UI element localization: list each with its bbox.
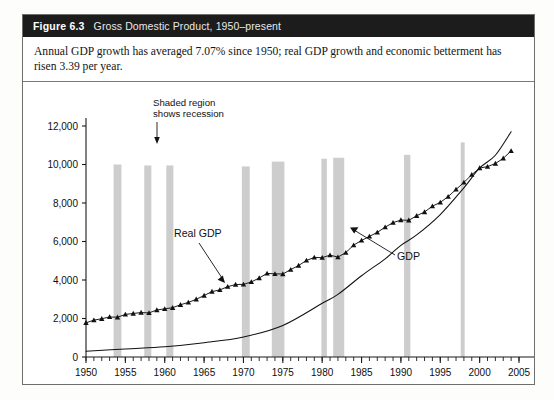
real-gdp-marker bbox=[375, 230, 380, 235]
x-axis-tick-label: 2005 bbox=[508, 367, 531, 378]
y-axis-tick-label: 6,000 bbox=[53, 236, 78, 247]
real-gdp-marker bbox=[508, 148, 513, 153]
x-axis-tick-label: 1990 bbox=[390, 367, 413, 378]
recession-note-arrow-head bbox=[154, 137, 160, 144]
y-axis-tick-label: 12,000 bbox=[47, 121, 78, 132]
real-gdp-arrow-shaft bbox=[199, 243, 222, 278]
real-gdp-annotation-label: Real GDP bbox=[174, 227, 222, 239]
x-axis-tick-label: 1955 bbox=[114, 367, 137, 378]
x-axis-tick-label: 1950 bbox=[75, 367, 98, 378]
real-gdp-marker bbox=[438, 200, 443, 205]
real-gdp-marker bbox=[359, 238, 364, 243]
figure-caption-text: Annual GDP growth has averaged 7.07% sin… bbox=[34, 45, 520, 74]
x-axis-tick-label: 1975 bbox=[272, 367, 295, 378]
recession-band bbox=[144, 165, 151, 357]
x-axis-tick-label: 1960 bbox=[154, 367, 177, 378]
chart-plot-area: 02,0004,0006,0008,00010,00012,0001950195… bbox=[23, 82, 534, 384]
real-gdp-marker bbox=[382, 224, 387, 229]
gdp-annotation-label: GDP bbox=[397, 250, 420, 262]
x-axis-tick-label: 1980 bbox=[311, 367, 334, 378]
figure-title: Gross Domestic Product, 1950–present bbox=[94, 20, 281, 32]
real-gdp-marker bbox=[430, 203, 435, 208]
recession-note-line-1: Shaded region bbox=[153, 97, 215, 108]
y-axis-tick-label: 0 bbox=[72, 352, 78, 363]
real-gdp-marker bbox=[493, 161, 498, 166]
x-axis-tick-label: 1970 bbox=[232, 367, 255, 378]
figure-header-bar: Figure 6.3 Gross Domestic Product, 1950–… bbox=[23, 15, 534, 37]
y-axis-tick-label: 10,000 bbox=[47, 159, 78, 170]
recession-note-line-2: shows recession bbox=[153, 108, 224, 119]
recession-band bbox=[114, 165, 122, 358]
recession-band bbox=[461, 142, 465, 357]
figure-number: Figure 6.3 bbox=[33, 20, 85, 32]
real-gdp-marker bbox=[327, 252, 332, 257]
y-axis-tick-label: 4,000 bbox=[53, 275, 78, 286]
figure-caption: Annual GDP growth has averaged 7.07% sin… bbox=[23, 37, 534, 82]
recession-band bbox=[242, 166, 250, 357]
y-axis-tick-label: 8,000 bbox=[53, 198, 78, 209]
real-gdp-marker bbox=[194, 297, 199, 302]
figure-page: Figure 6.3 Gross Domestic Product, 1950–… bbox=[0, 0, 554, 400]
recession-band bbox=[166, 165, 173, 357]
x-axis-tick-label: 2000 bbox=[469, 367, 492, 378]
real-gdp-marker bbox=[257, 275, 262, 280]
x-axis-tick-label: 1965 bbox=[193, 367, 216, 378]
real-gdp-marker bbox=[414, 213, 419, 218]
real-gdp-marker bbox=[201, 293, 206, 298]
gdp-line-chart: 02,0004,0006,0008,00010,00012,0001950195… bbox=[23, 82, 534, 384]
y-axis-tick-label: 2,000 bbox=[53, 313, 78, 324]
real-gdp-marker bbox=[296, 263, 301, 268]
real-gdp-marker bbox=[288, 267, 293, 272]
figure-container: Figure 6.3 Gross Domestic Product, 1950–… bbox=[22, 14, 535, 385]
real-gdp-marker bbox=[351, 242, 356, 247]
x-axis-tick-label: 1995 bbox=[429, 367, 452, 378]
x-axis-tick-label: 1985 bbox=[350, 367, 373, 378]
gdp-arrow-head bbox=[350, 227, 358, 233]
